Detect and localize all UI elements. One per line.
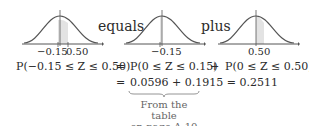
note-line-1: From the table bbox=[128, 99, 200, 121]
note-line-2: on page A-10 bbox=[128, 121, 200, 126]
underbrace bbox=[128, 90, 200, 98]
tick-label: 0.50 bbox=[248, 46, 270, 57]
normal-curve-middle bbox=[124, 6, 206, 46]
equals-sign: = bbox=[116, 76, 125, 89]
tick-label: −0.15 bbox=[37, 46, 68, 57]
term-1: P(0 ≤ Z ≤ 0.15) bbox=[130, 60, 218, 73]
plus-sign: + bbox=[210, 60, 219, 73]
tick-label: −0.15 bbox=[151, 46, 182, 57]
equals-sign: = bbox=[116, 60, 125, 73]
tick-label: 0.50 bbox=[66, 46, 88, 57]
table-note: From the table on page A-10 bbox=[128, 99, 200, 126]
normal-curve-right bbox=[218, 6, 300, 46]
equation-result: 0.0596 + 0.1915 = 0.2511 bbox=[130, 76, 278, 89]
equation-lhs: P(−0.15 ≤ Z ≤ 0.50) bbox=[16, 60, 130, 73]
term-2: P(0 ≤ Z ≤ 0.50) bbox=[225, 60, 309, 73]
normal-curve-left bbox=[22, 6, 104, 46]
